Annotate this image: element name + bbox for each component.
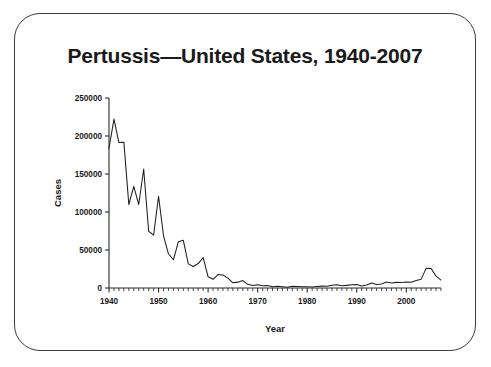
x-tick-label: 1990 — [348, 297, 367, 306]
x-tick-label: 2000 — [397, 297, 416, 306]
y-tick-label: 0 — [97, 284, 102, 293]
data-series-cases — [109, 119, 441, 287]
y-tick-label: 250000 — [75, 94, 103, 103]
x-axis: 1940195019601970198019902000 — [100, 288, 441, 306]
pertussis-line-chart: 050000100000150000200000250000 194019501… — [45, 86, 445, 336]
slide-frame: Pertussis—United States, 1940-2007 05000… — [14, 13, 476, 351]
cases-line — [109, 119, 441, 287]
x-tick-label: 1980 — [298, 297, 317, 306]
y-tick-label: 150000 — [75, 170, 103, 179]
y-axis-title: Cases — [52, 179, 63, 207]
x-tick-label: 1960 — [199, 297, 218, 306]
y-tick-label: 50000 — [79, 246, 102, 255]
x-tick-label: 1940 — [100, 297, 119, 306]
x-tick-label: 1970 — [249, 297, 268, 306]
x-axis-title: Year — [265, 323, 285, 334]
y-axis: 050000100000150000200000250000 — [75, 94, 109, 293]
x-tick-label: 1950 — [149, 297, 168, 306]
page-title: Pertussis—United States, 1940-2007 — [15, 44, 475, 68]
y-tick-label: 200000 — [75, 132, 103, 141]
chart-svg: 050000100000150000200000250000 194019501… — [45, 86, 445, 336]
y-tick-label: 100000 — [75, 208, 103, 217]
